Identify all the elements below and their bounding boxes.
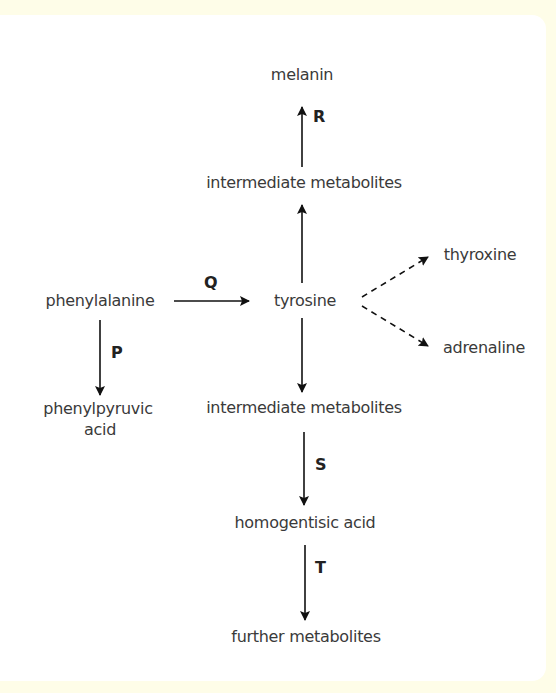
enzyme-label-t: T — [315, 558, 326, 577]
arrow-thyroxine — [362, 257, 428, 297]
node-tyrosine: tyrosine — [274, 290, 336, 311]
node-melanin: melanin — [271, 64, 333, 85]
node-phenylpyruvic-acid-line1: phenylpyruvic — [43, 398, 152, 419]
enzyme-label-p: P — [111, 343, 123, 362]
node-further-metabolites: further metabolites — [231, 626, 380, 647]
arrow-adrenaline — [362, 306, 428, 346]
node-homogentisic-acid: homogentisic acid — [235, 512, 376, 533]
node-thyroxine: thyroxine — [444, 244, 517, 265]
node-intermediate-metabolites-bottom: intermediate metabolites — [206, 397, 402, 418]
enzyme-label-r: R — [313, 107, 325, 126]
node-phenylpyruvic-acid-line2: acid — [84, 419, 116, 440]
node-adrenaline: adrenaline — [443, 337, 525, 358]
enzyme-label-q: Q — [204, 273, 218, 292]
enzyme-label-s: S — [315, 455, 327, 474]
node-phenylalanine: phenylalanine — [46, 290, 155, 311]
node-intermediate-metabolites-top: intermediate metabolites — [206, 172, 402, 193]
